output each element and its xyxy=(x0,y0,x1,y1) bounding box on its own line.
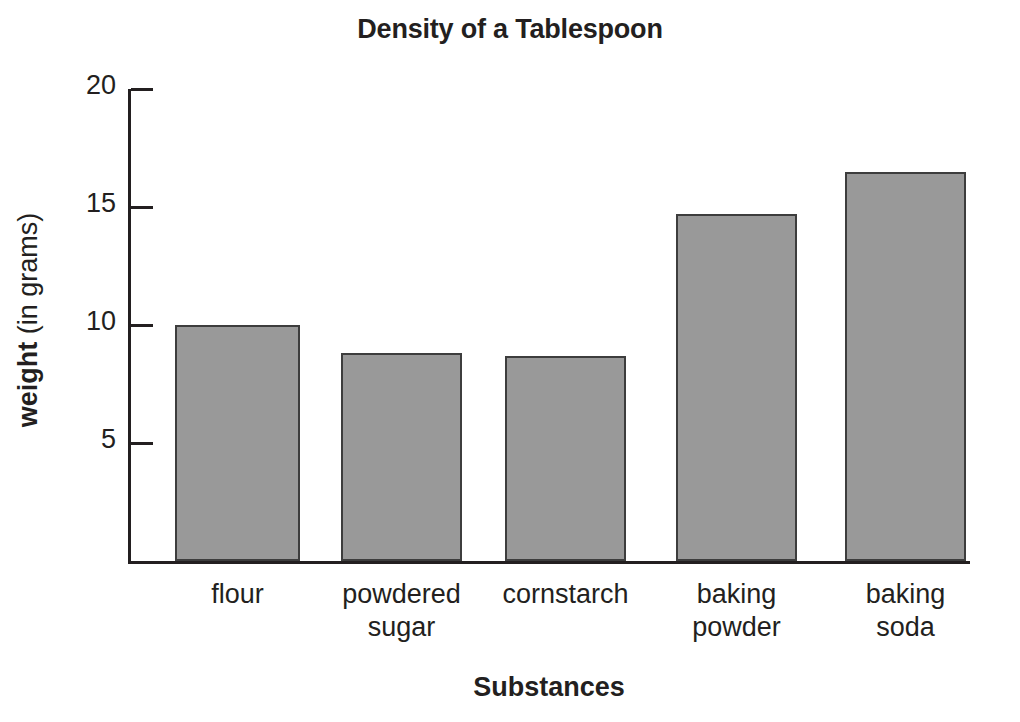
x-axis-category-label: flour xyxy=(143,578,333,611)
x-axis-category-label-line: sugar xyxy=(307,611,497,644)
bar xyxy=(505,356,626,561)
x-axis-category-label-line: cornstarch xyxy=(471,578,661,611)
x-axis-category-label-line: baking xyxy=(811,578,1001,611)
chart-title: Density of a Tablespoon xyxy=(0,14,1020,45)
bar xyxy=(845,172,966,561)
x-axis-category-label-line: baking xyxy=(642,578,832,611)
y-axis-title-bold: weight xyxy=(13,342,43,428)
x-axis-category-label: cornstarch xyxy=(471,578,661,611)
y-axis-tick-label: 10 xyxy=(58,306,116,337)
bar xyxy=(341,353,462,561)
y-axis-title-light: (in grams) xyxy=(13,213,43,342)
y-axis-tick-label: 20 xyxy=(58,70,116,101)
bar xyxy=(676,214,797,561)
bar xyxy=(175,325,300,561)
x-axis-category-label-line: flour xyxy=(143,578,333,611)
y-axis-tick-label: 15 xyxy=(58,188,116,219)
x-axis-category-label-line: powder xyxy=(642,611,832,644)
x-axis-title: Substances xyxy=(128,672,970,703)
bar-chart: Density of a Tablespoon weight (in grams… xyxy=(0,0,1020,722)
y-axis-title: weight (in grams) xyxy=(13,175,53,465)
x-axis-line xyxy=(128,561,970,564)
x-axis-category-label: powderedsugar xyxy=(307,578,497,644)
bars-layer xyxy=(128,89,970,561)
x-axis-category-label-line: powdered xyxy=(307,578,497,611)
plot-area: 5101520 xyxy=(128,89,970,561)
x-axis-category-label: bakingpowder xyxy=(642,578,832,644)
x-axis-category-label-line: soda xyxy=(811,611,1001,644)
x-axis-category-label: bakingsoda xyxy=(811,578,1001,644)
y-axis-tick-label: 5 xyxy=(58,424,116,455)
